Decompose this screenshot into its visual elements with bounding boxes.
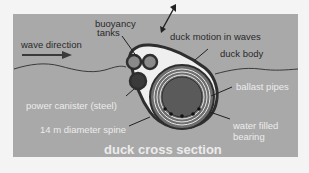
- wave-line-right: [215, 68, 298, 74]
- label-buoyancy-tanks-2: tanks: [97, 28, 120, 38]
- label-water-filled-1: water filled: [233, 121, 278, 131]
- label-water-filled-2: bearing: [233, 132, 265, 142]
- label-wave-direction: wave direction: [21, 40, 82, 50]
- wave-line: [14, 64, 126, 72]
- diagram-title: duck cross section: [104, 142, 222, 157]
- label-duck-motion: duck motion in waves: [170, 32, 261, 42]
- duck-motion-arrow: [163, 8, 174, 28]
- duck-body: [127, 45, 217, 129]
- label-ballast-pipes: ballast pipes: [236, 82, 289, 92]
- label-duck-body: duck body: [220, 49, 263, 59]
- label-power-canister: power canister (steel): [26, 101, 117, 111]
- label-spine: 14 m diameter spine: [40, 125, 126, 135]
